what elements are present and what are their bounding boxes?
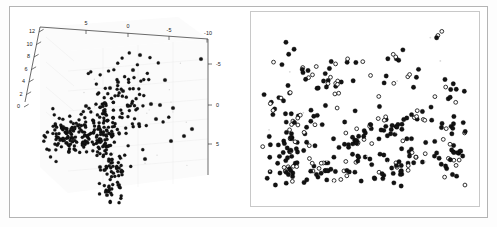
data-point — [323, 71, 327, 75]
data-point — [107, 69, 110, 72]
data-point — [104, 87, 107, 90]
data-point — [120, 173, 123, 176]
data-point — [93, 125, 96, 128]
data-point — [384, 124, 388, 128]
data-point — [295, 165, 299, 169]
data-point — [331, 137, 335, 141]
data-point — [46, 131, 49, 134]
data-point — [96, 92, 99, 95]
data-point — [307, 144, 311, 148]
data-point — [333, 169, 337, 173]
data-point — [69, 132, 72, 135]
data-point — [268, 155, 272, 159]
data-point — [92, 119, 95, 122]
data-point — [370, 142, 374, 146]
data-point — [339, 178, 343, 182]
data-point — [118, 91, 121, 94]
data-point — [441, 137, 445, 141]
data-point — [290, 179, 294, 183]
data-point — [85, 150, 88, 153]
data-point — [288, 168, 292, 172]
data-point — [95, 154, 98, 157]
data-point — [138, 53, 142, 57]
data-point — [355, 127, 359, 131]
data-point — [395, 125, 399, 129]
data-point — [382, 81, 386, 85]
data-point — [100, 139, 103, 142]
data-point — [109, 178, 112, 181]
data-point — [439, 125, 443, 129]
axis-y-tick-label-neg5: -5 — [216, 61, 221, 67]
background-speck — [75, 134, 76, 135]
data-point — [329, 59, 333, 63]
data-point — [86, 141, 89, 144]
data-point — [113, 125, 116, 128]
data-point — [52, 125, 55, 128]
data-point — [399, 184, 403, 188]
data-point — [99, 128, 102, 131]
data-point — [325, 168, 329, 172]
data-point — [268, 102, 272, 106]
data-point — [423, 118, 427, 122]
background-speck — [170, 101, 171, 102]
data-point — [450, 172, 454, 176]
data-point — [359, 179, 363, 183]
background-speck — [429, 37, 431, 39]
background-speck — [113, 152, 114, 153]
background-speck — [366, 155, 368, 157]
data-point — [448, 158, 452, 162]
data-point — [78, 126, 81, 129]
data-point — [345, 174, 349, 178]
background-speck — [424, 161, 426, 163]
data-point — [392, 181, 396, 185]
data-point — [433, 95, 437, 99]
data-point — [379, 128, 383, 132]
data-point — [157, 61, 160, 64]
data-point — [113, 141, 116, 144]
data-point — [106, 92, 109, 95]
data-point — [265, 176, 269, 180]
data-point — [344, 131, 348, 135]
data-point — [448, 95, 452, 99]
data-point — [308, 157, 312, 161]
data-point — [84, 120, 87, 123]
data-point — [332, 155, 336, 159]
data-point — [136, 107, 139, 110]
data-point — [335, 106, 339, 110]
data-point — [284, 120, 288, 124]
data-point — [420, 109, 424, 113]
data-point — [268, 142, 272, 146]
data-point — [112, 116, 115, 119]
background-speck — [144, 163, 145, 164]
axis-x-tick-label-2: -5 — [167, 27, 172, 33]
background-speck — [186, 122, 187, 123]
data-point — [57, 132, 60, 135]
data-point — [288, 135, 292, 139]
data-point — [128, 51, 131, 54]
axis-x-tick-label-1: 0 — [127, 23, 130, 29]
data-point — [285, 156, 289, 160]
data-point — [89, 110, 92, 113]
data-point — [319, 171, 323, 175]
data-point — [302, 130, 306, 134]
data-point — [103, 168, 106, 171]
data-point — [67, 143, 70, 146]
data-point — [310, 161, 314, 165]
data-point — [121, 95, 124, 98]
panel-3d-scatter: 5 0 -5 -10 12 10 8 6 — [10, 7, 238, 217]
axes3d-panes — [40, 17, 208, 193]
data-point — [138, 93, 141, 96]
data-point — [282, 166, 286, 170]
data-point — [289, 148, 293, 152]
data-point — [313, 123, 317, 127]
data-point — [414, 75, 418, 79]
background-speck — [146, 113, 147, 114]
data-point — [98, 121, 101, 124]
data-point — [461, 120, 465, 124]
data-point — [190, 127, 194, 131]
data-point — [415, 109, 419, 113]
data-point — [133, 117, 136, 120]
data-point — [83, 116, 86, 119]
data-point — [60, 145, 63, 148]
axis-x-tick-label-3: -10 — [204, 30, 212, 36]
